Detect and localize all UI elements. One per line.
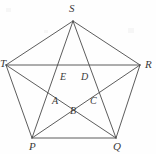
edge-R-S (73, 21, 140, 65)
diagonal-S-P (32, 21, 73, 138)
pentagon-diagram: STRPQ EDCBA (0, 0, 156, 154)
vertex-label-t: T (0, 58, 6, 69)
inner-label-a: A (52, 96, 58, 106)
diagonal-S-Q (73, 21, 116, 138)
pentagon-svg (0, 0, 156, 154)
inner-label-e: E (60, 72, 66, 82)
pentagon-edges (6, 21, 140, 138)
edge-T-P (6, 65, 32, 138)
edge-Q-R (116, 65, 140, 138)
vertex-label-p: P (29, 141, 36, 152)
edge-S-T (6, 21, 73, 65)
vertex-label-q: Q (113, 141, 121, 152)
inner-label-b: B (70, 106, 76, 116)
inner-label-d: D (81, 72, 88, 82)
inner-label-c: C (90, 96, 97, 106)
vertex-label-s: S (69, 3, 75, 14)
vertex-label-r: R (145, 59, 152, 70)
